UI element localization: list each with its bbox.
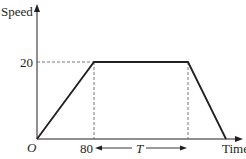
- arrow-right-icon: [180, 146, 187, 151]
- speed-time-graph: Speed 20 O 80 Time T: [0, 0, 246, 159]
- x-axis-label: Time: [222, 141, 246, 156]
- origin-label: O: [27, 140, 37, 155]
- y-tick-20: 20: [20, 55, 33, 70]
- y-axis-label: Speed: [1, 4, 33, 19]
- y-axis-arrow-icon: [34, 4, 40, 12]
- interval-label-t: T: [136, 141, 144, 156]
- arrow-left-icon: [95, 146, 102, 151]
- speed-line: [37, 62, 226, 139]
- x-tick-80: 80: [80, 141, 93, 156]
